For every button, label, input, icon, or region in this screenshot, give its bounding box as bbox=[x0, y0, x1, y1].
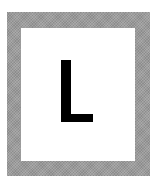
letter-stem bbox=[61, 60, 71, 122]
letter-glyph: L bbox=[21, 28, 135, 161]
letter-text: L bbox=[21, 28, 22, 29]
letter-foot bbox=[61, 114, 93, 122]
letter-card-frame: L bbox=[7, 12, 150, 176]
letter-card: L bbox=[21, 28, 135, 161]
